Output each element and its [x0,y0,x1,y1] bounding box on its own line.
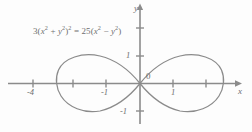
y-axis-label: y [134,4,138,13]
y-tick-label-one: 1 [126,51,130,60]
equation-plus: + [48,26,58,36]
equation-rhs-coefficient: 25 [81,26,90,36]
y-tick-label-neg-one: -1 [120,107,127,116]
equation-close-paren-2: ) [118,26,121,36]
x-tick-label-neg1: -1 [101,88,108,97]
origin-label: 0 [146,72,151,81]
equation-label: 3(x2 + y2)2 = 25(x2 − y2) [33,26,121,36]
x-tick-label-one: 1 [171,88,175,97]
equation-minus: − [101,26,111,36]
x-axis-label: x [238,87,242,96]
equation-equals: = [72,26,82,36]
x-tick-label-neg4: -4 [27,88,34,97]
lemniscate-figure: 3(x2 + y2)2 = 25(x2 − y2) -4 -1 1 1 -1 0… [0,0,252,132]
